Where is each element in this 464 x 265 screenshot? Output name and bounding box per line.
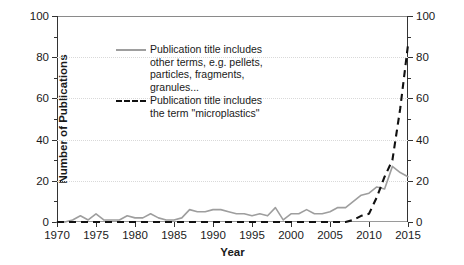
y-tick-right-20: [408, 181, 413, 182]
y-tick-label-left-60: 60: [36, 92, 49, 104]
publications-per-year-chart: Number of Publications 00202040406060808…: [0, 0, 464, 265]
x-tick-2005: [330, 222, 331, 227]
x-tick-label-2010: 2010: [356, 229, 382, 241]
y-tick-label-left-100: 100: [30, 10, 49, 22]
x-tick-label-2000: 2000: [278, 229, 304, 241]
y-tick-label-right-40: 40: [416, 134, 429, 146]
y-tick-label-right-60: 60: [416, 92, 429, 104]
y-tick-right-40: [408, 140, 413, 141]
legend-swatch-icon: [116, 49, 146, 51]
y-tick-label-left-40: 40: [36, 134, 49, 146]
legend-label-line: other terms, e.g. pellets,: [150, 56, 263, 69]
y-tick-right-70: [408, 78, 411, 79]
plot-area: 002020404060608080100100 197019751980198…: [57, 16, 408, 222]
legend-label-line: Publication title includes: [150, 94, 262, 107]
legend-line-sample-dashed: [116, 94, 146, 107]
x-tick-label-2015: 2015: [395, 229, 421, 241]
series-line-other-terms: [57, 166, 408, 222]
x-tick-label-1995: 1995: [239, 229, 265, 241]
y-tick-label-left-0: 0: [43, 216, 49, 228]
y-tick-right-60: [408, 98, 413, 99]
legend-entry-2: Publication title includesthe term "micr…: [116, 94, 291, 119]
legend-label-line: granules...: [150, 81, 263, 94]
x-tick-2010: [369, 222, 370, 227]
y-tick-label-right-80: 80: [416, 51, 429, 63]
legend-line-sample-solid: [116, 43, 146, 56]
legend-label-line: the term "microplastics": [150, 107, 262, 120]
legend-label-2: Publication title includesthe term "micr…: [150, 94, 262, 119]
legend-label-1: Publication title includesother terms, e…: [150, 43, 263, 93]
y-tick-label-right-0: 0: [416, 216, 422, 228]
y-tick-label-left-80: 80: [36, 51, 49, 63]
x-tick-label-1970: 1970: [44, 229, 70, 241]
x-axis-title: Year: [57, 246, 408, 258]
y-tick-right-10: [408, 201, 411, 202]
y-tick-right-80: [408, 57, 413, 58]
x-tick-label-1990: 1990: [200, 229, 226, 241]
legend-swatch-icon: [116, 100, 146, 102]
y-tick-label-right-20: 20: [416, 175, 429, 187]
y-axis-title-wrapper: Number of Publications: [0, 16, 16, 222]
y-tick-right-30: [408, 160, 411, 161]
x-tick-label-1980: 1980: [122, 229, 148, 241]
y-tick-label-right-100: 100: [416, 10, 435, 22]
legend-label-line: Publication title includes: [150, 43, 263, 56]
y-tick-right-50: [408, 119, 411, 120]
x-tick-label-2005: 2005: [317, 229, 343, 241]
x-tick-1985: [174, 222, 175, 227]
x-tick-label-1975: 1975: [83, 229, 109, 241]
chart-legend: Publication title includesother terms, e…: [116, 43, 291, 121]
y-tick-label-left-20: 20: [36, 175, 49, 187]
y-tick-right-90: [408, 37, 411, 38]
legend-entry-1: Publication title includesother terms, e…: [116, 43, 291, 93]
y-tick-right-100: [408, 16, 413, 17]
legend-label-line: particles, fragments,: [150, 68, 263, 81]
x-tick-label-1985: 1985: [161, 229, 187, 241]
x-tick-2015: [408, 222, 409, 227]
